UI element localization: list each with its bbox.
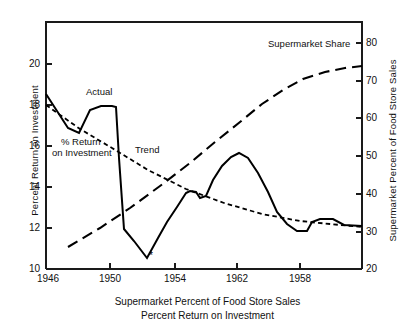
y-left-tick-18: 18 (18, 99, 40, 110)
y-left-tick-12: 12 (18, 222, 40, 233)
y-right-tick-20: 20 (366, 263, 390, 274)
annotation-return-line1: % Return (61, 136, 101, 147)
y-right-tick-30: 30 (366, 226, 390, 237)
y-right-tick-50: 50 (366, 150, 390, 161)
annotation-trend: Trend (135, 144, 159, 155)
annotation-return-line2: on Investment (52, 147, 112, 158)
x-tick-1946: 1946 (28, 273, 68, 284)
svg-text:*: * (149, 250, 153, 261)
caption-line-2: Percent Return on Investment (0, 309, 415, 323)
y-left-tick-14: 14 (18, 181, 40, 192)
x-tick-1958: 1958 (280, 273, 320, 284)
chart-figure: * Percent Return on Investment Supermark… (0, 0, 415, 327)
x-tick-1962: 1962 (217, 273, 257, 284)
y-right-ticks (356, 43, 362, 269)
series-actual-line (46, 94, 362, 258)
annotation-actual: Actual (86, 86, 112, 97)
series-trend-line (46, 105, 362, 227)
y-left-tick-16: 16 (18, 140, 40, 151)
y-right-tick-40: 40 (366, 188, 390, 199)
caption-line-1: Supermarket Percent of Food Store Sales (0, 295, 415, 309)
chart-caption: Supermarket Percent of Food Store Sales … (0, 295, 415, 322)
x-ticks (110, 263, 300, 269)
y-right-tick-60: 60 (366, 112, 390, 123)
annotation-supermarket-share: Supermarket Share (268, 38, 350, 49)
y-right-tick-70: 70 (366, 75, 390, 86)
y-right-tick-80: 80 (366, 37, 390, 48)
x-tick-1950: 1950 (90, 273, 130, 284)
y-left-tick-20: 20 (18, 58, 40, 69)
footnote-asterisk-marker: * (149, 250, 153, 261)
x-tick-1954: 1954 (155, 273, 195, 284)
